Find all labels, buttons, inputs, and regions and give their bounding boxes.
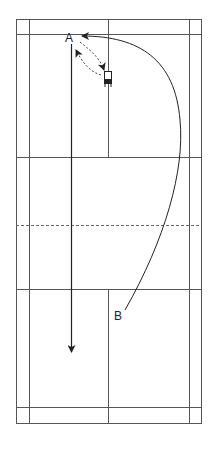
label-a: A [65,31,73,45]
dashed-movement-out [80,42,104,70]
badminton-court-diagram: A B [0,0,210,451]
dashed-movement-back [76,50,101,75]
shuttle-arc-path [82,36,181,310]
label-b: B [114,309,122,323]
